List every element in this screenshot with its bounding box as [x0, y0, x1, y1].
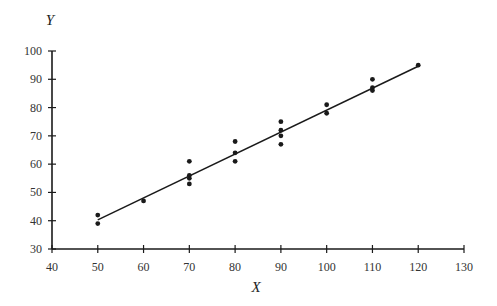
x-tick-label: 70 [183, 260, 195, 274]
y-tick-label: 60 [30, 157, 42, 171]
y-tick-label: 80 [30, 101, 42, 115]
x-tick-label: 120 [409, 260, 427, 274]
x-tick-label: 90 [275, 260, 287, 274]
y-tick-label: 50 [30, 185, 42, 199]
axes: 4050607080901001101201303040506070809010… [24, 44, 473, 274]
regression-line [98, 66, 418, 220]
data-point [278, 128, 283, 133]
y-tick-label: 30 [30, 242, 42, 256]
data-point [278, 119, 283, 124]
data-point [278, 142, 283, 147]
y-tick-label: 70 [30, 129, 42, 143]
data-point [95, 221, 100, 226]
x-tick-label: 110 [364, 260, 382, 274]
data-point [416, 63, 421, 68]
x-tick-label: 60 [138, 260, 150, 274]
data-point [233, 139, 238, 144]
data-point [233, 150, 238, 155]
data-point [141, 199, 146, 204]
fit-line [98, 66, 418, 220]
y-tick-label: 90 [30, 72, 42, 86]
data-point [370, 88, 375, 93]
y-tick-label: 100 [24, 44, 42, 58]
x-axis-title: X [250, 279, 261, 295]
y-axis-title: Y [46, 12, 56, 28]
y-tick-label: 40 [30, 214, 42, 228]
data-point [187, 182, 192, 187]
data-point [187, 159, 192, 164]
data-point [187, 176, 192, 181]
data-points [95, 63, 420, 226]
scatter-chart: 4050607080901001101201303040506070809010… [0, 0, 497, 306]
data-point [324, 111, 329, 116]
x-tick-label: 40 [46, 260, 58, 274]
x-tick-label: 130 [455, 260, 473, 274]
data-point [370, 77, 375, 82]
data-point [324, 102, 329, 107]
data-point [233, 159, 238, 164]
x-tick-label: 50 [92, 260, 104, 274]
x-tick-label: 100 [318, 260, 336, 274]
data-point [278, 133, 283, 138]
data-point [95, 213, 100, 218]
x-tick-label: 80 [229, 260, 241, 274]
